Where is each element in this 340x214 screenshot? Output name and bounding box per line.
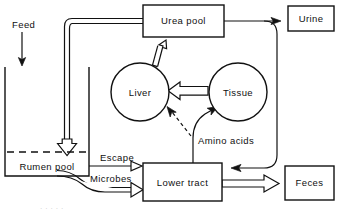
node-urea-pool[interactable]: Urea pool — [143, 5, 224, 37]
lower-tract-label: Lower tract — [157, 177, 208, 188]
urea-to-rumen-arrowhead — [58, 139, 77, 156]
edge-lower-tract-to-liver — [167, 107, 191, 137]
rumen-pool-label: Rumen pool — [19, 161, 74, 172]
cropped-caption-remnant: · · · · · — [40, 205, 64, 212]
node-lower-tract[interactable]: Lower tract — [143, 163, 222, 201]
diagram-canvas: Urea pool Urine Liver Tissue Rumen pool … — [0, 0, 340, 214]
edge-liver-to-urea-pool — [153, 40, 167, 67]
escape-label: Escape — [100, 152, 134, 163]
feed-label: Feed — [12, 19, 35, 30]
liver-to-urea-arrowhead — [158, 40, 167, 67]
tissue-label: Tissue — [223, 87, 253, 98]
urine-label: Urine — [299, 13, 324, 24]
node-tissue[interactable]: Tissue — [209, 63, 267, 121]
edge-rumen-pool-escape-to-lower-tract — [89, 161, 142, 171]
node-urine[interactable]: Urine — [288, 6, 334, 31]
feces-label: Feces — [296, 177, 324, 188]
microbes-label: Microbes — [90, 173, 132, 184]
node-feces[interactable]: Feces — [285, 166, 334, 200]
liver-label: Liver — [129, 87, 152, 98]
tissue-to-liver-arrowhead — [168, 82, 208, 100]
feces-arrowhead — [222, 175, 279, 192]
edge-tissue-to-liver — [168, 82, 208, 100]
escape-arrowhead — [131, 161, 142, 171]
nitrogen-flow-diagram: Urea pool Urine Liver Tissue Rumen pool … — [0, 0, 340, 214]
edge-feed-to-rumen-pool — [18, 32, 25, 66]
amino-acids-label: Amino acids — [198, 135, 254, 146]
urea-pool-label: Urea pool — [161, 15, 206, 26]
microbes-arrowhead — [131, 183, 143, 197]
node-liver[interactable]: Liver — [111, 63, 169, 121]
edge-lower-tract-to-feces — [222, 175, 279, 192]
